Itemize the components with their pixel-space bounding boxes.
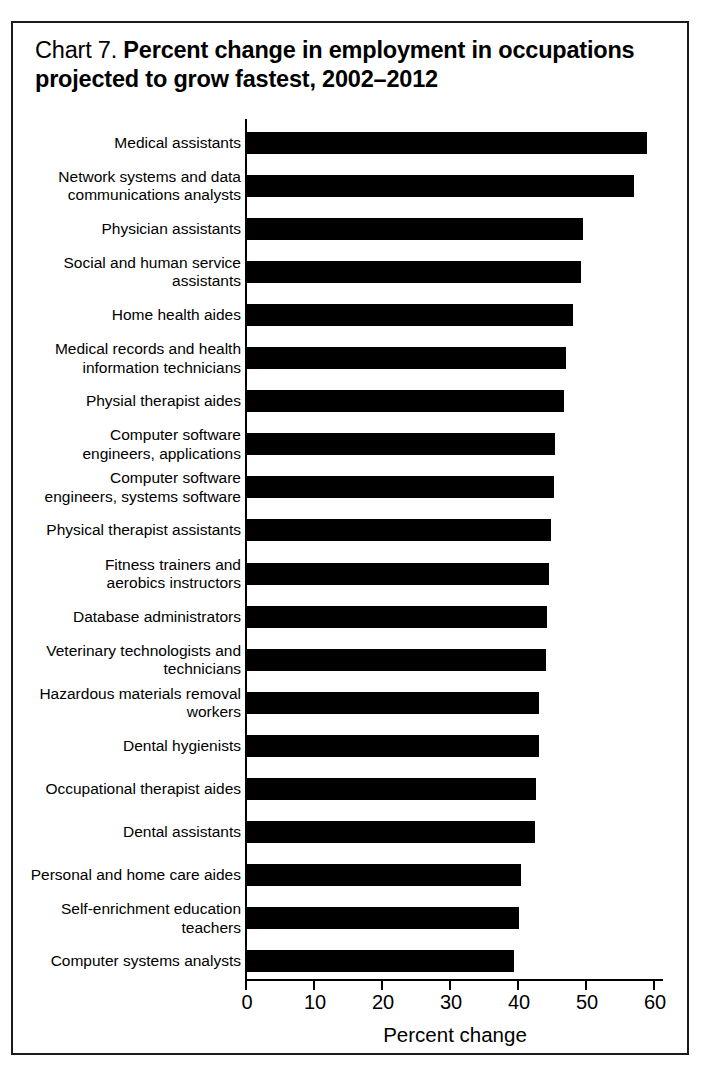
bar xyxy=(246,132,647,154)
x-axis-tick xyxy=(313,981,315,990)
bar-row: Fitness trainers and aerobics instructor… xyxy=(13,552,691,595)
x-axis-tick xyxy=(381,981,383,990)
bar xyxy=(246,218,583,240)
bar xyxy=(246,563,549,585)
bar xyxy=(246,735,539,757)
bar-row: Computer systems analysts xyxy=(13,940,691,983)
category-label: Computer software engineers, application… xyxy=(11,426,241,463)
category-label: Dental assistants xyxy=(11,823,241,842)
bar-row: Dental hygienists xyxy=(13,724,691,767)
category-label: Personal and home care aides xyxy=(11,866,241,885)
x-axis-tick-label: 60 xyxy=(625,991,685,1014)
x-axis-tick-label: 30 xyxy=(421,991,481,1014)
plot-area: Medical assistantsNetwork systems and da… xyxy=(13,23,691,1057)
bar-row: Social and human service assistants xyxy=(13,250,691,293)
x-axis-tick xyxy=(449,981,451,990)
category-label: Occupational therapist aides xyxy=(11,780,241,799)
bar xyxy=(246,433,555,455)
bar xyxy=(246,519,551,541)
category-label: Medical assistants xyxy=(11,133,241,152)
x-axis-tick-label: 50 xyxy=(557,991,617,1014)
x-axis-tick-label: 40 xyxy=(489,991,549,1014)
category-label: Physical therapist assistants xyxy=(11,521,241,540)
category-label: Network systems and data communications … xyxy=(11,167,241,204)
bar xyxy=(246,864,521,886)
bar xyxy=(246,304,573,326)
x-axis-tick-label: 20 xyxy=(353,991,413,1014)
bar-row: Hazardous materials removal workers xyxy=(13,681,691,724)
bar-row: Physial therapist aides xyxy=(13,380,691,423)
bar-row: Home health aides xyxy=(13,293,691,336)
category-label: Computer systems analysts xyxy=(11,952,241,971)
x-axis-tick xyxy=(585,981,587,990)
bar xyxy=(246,821,535,843)
bar xyxy=(246,606,547,628)
bar xyxy=(246,390,564,412)
bar-row: Computer software engineers, application… xyxy=(13,423,691,466)
bar xyxy=(246,950,514,972)
category-label: Database administrators xyxy=(11,607,241,626)
bar-row: Dental assistants xyxy=(13,811,691,854)
bar-row: Database administrators xyxy=(13,595,691,638)
bar xyxy=(246,261,581,283)
bar-row: Computer software engineers, systems sof… xyxy=(13,466,691,509)
chart-figure: Chart 7. Percent change in employment in… xyxy=(11,21,689,1055)
x-axis-tick xyxy=(245,981,247,990)
bar xyxy=(246,649,546,671)
bar xyxy=(246,692,539,714)
category-label: Social and human service assistants xyxy=(11,253,241,290)
category-label: Physial therapist aides xyxy=(11,392,241,411)
category-label: Physician assistants xyxy=(11,220,241,239)
bar xyxy=(246,347,566,369)
bar-row: Veterinary technologists and technicians xyxy=(13,638,691,681)
bar xyxy=(246,476,554,498)
category-label: Self-enrichment education teachers xyxy=(11,900,241,937)
x-axis-tick xyxy=(517,981,519,990)
bar xyxy=(246,778,536,800)
bar-row: Occupational therapist aides xyxy=(13,768,691,811)
bar-row: Network systems and data communications … xyxy=(13,164,691,207)
category-label: Computer software engineers, systems sof… xyxy=(11,469,241,506)
bar-row: Physician assistants xyxy=(13,207,691,250)
x-axis-title: Percent change xyxy=(245,1023,665,1047)
x-axis-tick-label: 0 xyxy=(217,991,277,1014)
category-label: Fitness trainers and aerobics instructor… xyxy=(11,555,241,592)
x-axis-tick-label: 10 xyxy=(285,991,345,1014)
bar xyxy=(246,907,519,929)
category-label: Medical records and health information t… xyxy=(11,340,241,377)
bar-row: Self-enrichment education teachers xyxy=(13,897,691,940)
category-label: Veterinary technologists and technicians xyxy=(11,641,241,678)
bar-row: Medical assistants xyxy=(13,121,691,164)
bar-row: Physical therapist assistants xyxy=(13,509,691,552)
bar-row: Personal and home care aides xyxy=(13,854,691,897)
x-axis-tick xyxy=(653,981,655,990)
category-label: Home health aides xyxy=(11,306,241,325)
category-label: Hazardous materials removal workers xyxy=(11,684,241,721)
bar xyxy=(246,175,634,197)
bar-row: Medical records and health information t… xyxy=(13,337,691,380)
category-label: Dental hygienists xyxy=(11,737,241,756)
